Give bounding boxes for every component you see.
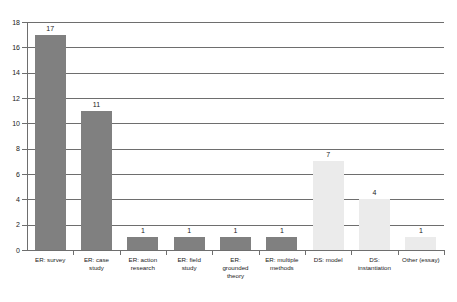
x-axis-tick-mark [351,251,352,255]
y-axis-tick-label: 18 [0,19,20,26]
bar [313,161,344,250]
x-axis-category-label: ER: survey [27,256,73,264]
bar-value-label: 4 [355,189,395,196]
x-axis-category-label: ER:groundedtheory [212,256,258,281]
bar-chart: 024681012141618 17111111741 ER: surveyER… [0,0,457,302]
x-axis-category-label: DS: model [305,256,351,264]
x-axis-tick-mark [73,251,74,255]
bar [174,237,205,250]
bar-value-label: 1 [169,227,209,234]
bar-value-label: 17 [30,25,70,32]
bar [220,237,251,250]
bar-value-label: 1 [401,227,441,234]
category-label-line: methods [259,264,305,272]
bar [359,199,390,250]
category-label-line: ER: field [166,256,212,264]
bar [81,111,112,250]
x-axis-category-label: ER: multiplemethods [259,256,305,272]
category-label-line: ER: [212,256,258,264]
x-axis-category-label: ER: actionresearch [120,256,166,272]
category-label-line: ER: action [120,256,166,264]
gridline [27,47,444,48]
x-axis-category-labels: ER: surveyER: casestudyER: actionresearc… [27,256,444,300]
y-axis-tick-label: 6 [0,171,20,178]
x-axis-category-label: ER: fieldstudy [166,256,212,272]
y-axis-tick-label: 2 [0,221,20,228]
y-axis-tick-label: 0 [0,247,20,254]
bar-value-label: 1 [123,227,163,234]
x-axis-tick-mark [398,251,399,255]
x-axis-tick-mark [259,251,260,255]
category-label-line: ER: case [73,256,119,264]
bar [127,237,158,250]
category-label-line: ER: multiple [259,256,305,264]
x-axis-tick-mark [444,251,445,255]
bar [405,237,436,250]
category-label-line: study [166,264,212,272]
x-axis-tick-mark [212,251,213,255]
gridline [27,250,444,251]
gridline [27,98,444,99]
x-axis-tick-mark [120,251,121,255]
category-label-line: Other (essay) [398,256,444,264]
y-axis-tick-label: 10 [0,120,20,127]
x-axis-category-label: Other (essay) [398,256,444,264]
x-axis-category-label: ER: casestudy [73,256,119,272]
y-axis-tick-label: 12 [0,95,20,102]
x-axis-category-label: DS:instantiation [351,256,397,272]
bar-value-label: 1 [216,227,256,234]
y-axis-tick-label: 8 [0,145,20,152]
bar-value-label: 1 [262,227,302,234]
category-label-line: DS: [351,256,397,264]
category-label-line: study [73,264,119,272]
y-axis-tick-label: 16 [0,44,20,51]
x-axis-tick-mark [166,251,167,255]
category-label-line: DS: model [305,256,351,264]
category-label-line: ER: survey [27,256,73,264]
plot-area [27,22,444,250]
x-axis-tick-mark [305,251,306,255]
y-axis-tick-label: 4 [0,196,20,203]
gridline [27,73,444,74]
category-label-line: instantiation [351,264,397,272]
category-label-line: grounded [212,264,258,272]
bar-value-label: 11 [77,101,117,108]
y-axis-tick-label: 14 [0,69,20,76]
bar [35,35,66,250]
gridline [27,22,444,23]
category-label-line: theory [212,272,258,280]
bar-value-label: 7 [308,151,348,158]
y-axis-tick-labels: 024681012141618 [0,0,20,302]
bar [266,237,297,250]
category-label-line: research [120,264,166,272]
